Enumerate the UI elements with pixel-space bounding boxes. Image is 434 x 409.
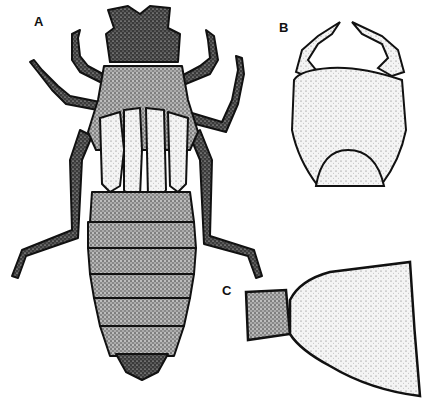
abdomen-tip bbox=[116, 354, 168, 380]
abdomen-segment-3 bbox=[88, 248, 196, 274]
head bbox=[106, 6, 180, 62]
gill-lamella bbox=[290, 262, 420, 396]
leg-hind-right bbox=[190, 130, 262, 278]
wing-pad-left-outer bbox=[100, 112, 124, 192]
abdomen-segment-6 bbox=[100, 326, 184, 356]
panel-c-gill bbox=[246, 262, 420, 396]
panel-b-labium bbox=[292, 22, 406, 186]
leg-hind-left bbox=[12, 130, 92, 278]
scientific-illustration-figure: A B C bbox=[0, 0, 434, 409]
illustration-canvas bbox=[0, 0, 434, 409]
wing-pad-right-inner bbox=[146, 108, 166, 200]
panel-a-larva bbox=[12, 6, 262, 380]
wing-pad-right-outer bbox=[168, 112, 188, 192]
abdomen-segment-1 bbox=[90, 192, 194, 222]
wing-pad-left-inner bbox=[124, 108, 142, 200]
abdomen-segment-4 bbox=[90, 274, 194, 298]
panel-label-b: B bbox=[279, 20, 288, 35]
abdomen-segment-5 bbox=[94, 298, 190, 326]
panel-label-c: C bbox=[222, 283, 231, 298]
abdomen-segment-2 bbox=[88, 222, 196, 248]
panel-label-a: A bbox=[34, 14, 43, 29]
gill-base bbox=[246, 290, 290, 340]
labium-palp-right bbox=[352, 22, 404, 76]
